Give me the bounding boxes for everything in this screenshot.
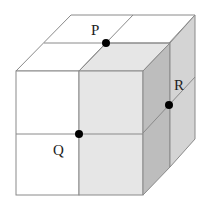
front-face-left — [16, 71, 79, 195]
cube-diagram: P Q R — [0, 0, 208, 209]
point-q — [75, 130, 83, 138]
label-q: Q — [53, 142, 64, 158]
front-face-right — [79, 71, 143, 195]
point-r — [165, 101, 173, 109]
label-r: R — [174, 77, 184, 93]
point-p — [102, 39, 110, 47]
label-p: P — [91, 22, 99, 38]
